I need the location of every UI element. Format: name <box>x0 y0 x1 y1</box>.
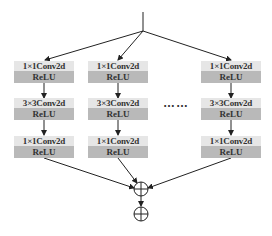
sum-node-2-icon <box>134 207 148 221</box>
merge-arrow-n <box>148 158 231 188</box>
branch-1-layer-2: 3×3Conv2d ReLU <box>14 98 74 120</box>
sum-node-1-icon <box>134 182 148 196</box>
branch-2-layer-3: 1×1Conv2d ReLU <box>88 136 148 158</box>
relu-label: ReLU <box>88 108 148 120</box>
relu-label: ReLU <box>201 108 261 120</box>
conv-label: 1×1Conv2d <box>88 61 148 71</box>
branch-1-layer-3: 1×1Conv2d ReLU <box>14 136 74 158</box>
branch-2-layer-1: 1×1Conv2d ReLU <box>88 61 148 83</box>
relu-label: ReLU <box>14 108 74 120</box>
ellipsis: …… <box>160 96 192 110</box>
relu-label: ReLU <box>201 71 261 83</box>
conv-label: 1×1Conv2d <box>201 136 261 146</box>
branch-2-layer-2: 3×3Conv2d ReLU <box>88 98 148 120</box>
relu-label: ReLU <box>14 146 74 158</box>
relu-label: ReLU <box>14 71 74 83</box>
conv-label: 1×1Conv2d <box>14 136 74 146</box>
conv-label: 1×1Conv2d <box>14 61 74 71</box>
relu-label: ReLU <box>88 71 148 83</box>
conv-label: 1×1Conv2d <box>88 136 148 146</box>
fanout-arrow-2 <box>118 31 143 60</box>
merge-arrow-1 <box>44 158 134 188</box>
conv-label: 3×3Conv2d <box>14 98 74 108</box>
fanout-arrow-1 <box>45 31 143 60</box>
branch-n-layer-1: 1×1Conv2d ReLU <box>201 61 261 83</box>
conv-label: 3×3Conv2d <box>201 98 261 108</box>
relu-label: ReLU <box>88 146 148 158</box>
branch-n-layer-2: 3×3Conv2d ReLU <box>201 98 261 120</box>
branch-n-layer-3: 1×1Conv2d ReLU <box>201 136 261 158</box>
merge-arrow-2 <box>118 158 137 183</box>
branch-1-layer-1: 1×1Conv2d ReLU <box>14 61 74 83</box>
fanout-arrow-n <box>143 31 231 60</box>
conv-label: 1×1Conv2d <box>201 61 261 71</box>
conv-label: 3×3Conv2d <box>88 98 148 108</box>
relu-label: ReLU <box>201 146 261 158</box>
